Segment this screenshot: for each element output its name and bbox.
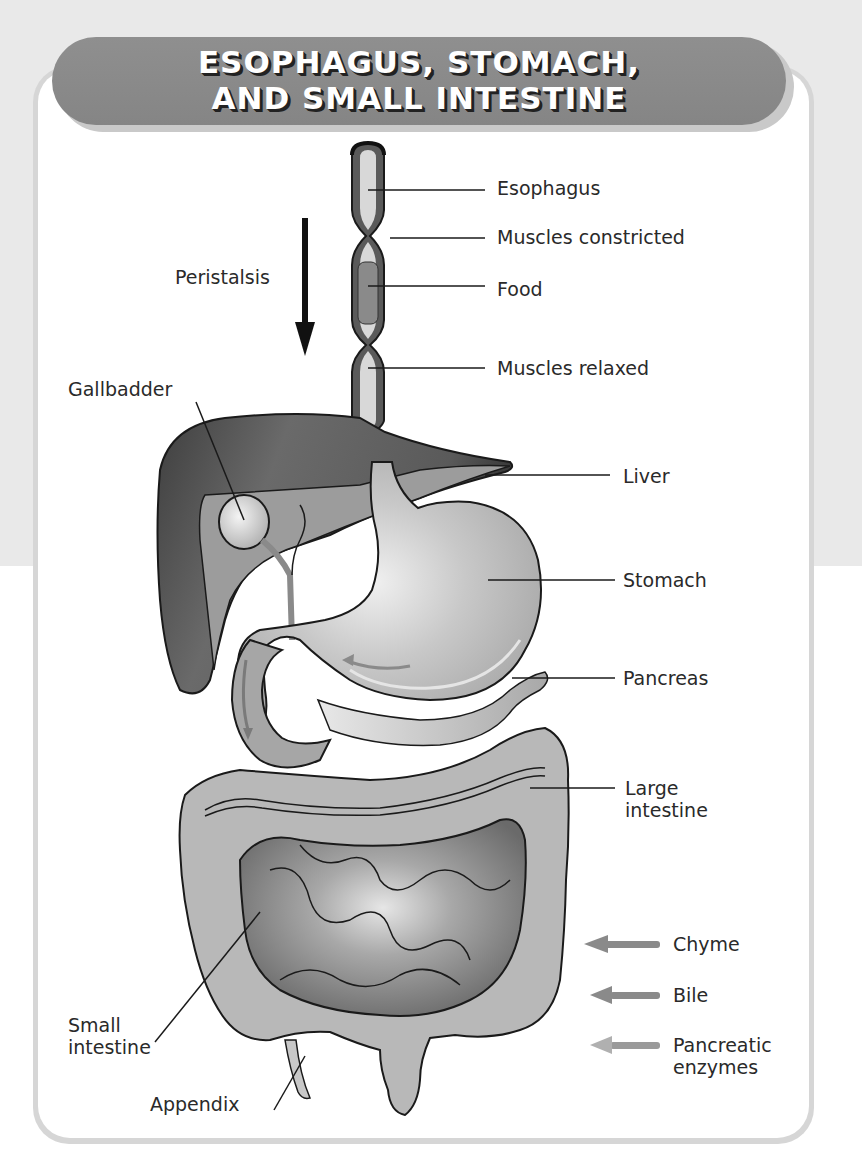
legend-bile-arrow-icon: [590, 986, 660, 1004]
label-pancreas: Pancreas: [623, 667, 708, 689]
legend-pancreatic-line1: Pancreatic: [673, 1034, 772, 1056]
label-food: Food: [497, 278, 543, 300]
legend-pancreatic-enzymes-arrow-icon: [590, 1036, 660, 1054]
legend-pancreatic-enzymes-label: Pancreatic enzymes: [673, 1034, 772, 1078]
legend-chyme-label: Chyme: [673, 933, 740, 955]
label-liver: Liver: [623, 465, 670, 487]
small-intestine-shape: [240, 819, 526, 1016]
label-small-intestine-line1: Small: [68, 1014, 151, 1036]
label-large-intestine-line2: intestine: [625, 799, 708, 821]
esophagus-tube: [352, 143, 384, 462]
label-appendix: Appendix: [150, 1093, 239, 1115]
label-muscles-relaxed: Muscles relaxed: [497, 357, 649, 379]
label-esophagus: Esophagus: [497, 177, 600, 199]
label-peristalsis: Peristalsis: [175, 266, 270, 288]
label-small-intestine: Small intestine: [68, 1014, 151, 1058]
legend-pancreatic-line2: enzymes: [673, 1056, 772, 1078]
label-gallbladder: Gallbadder: [68, 378, 172, 400]
label-stomach: Stomach: [623, 569, 707, 591]
digestive-system-illustration: [0, 0, 862, 1161]
duodenum-shape: [232, 640, 330, 768]
label-large-intestine: Large intestine: [625, 777, 708, 821]
label-large-intestine-line1: Large: [625, 777, 708, 799]
peristalsis-arrow-icon: [295, 218, 315, 356]
label-small-intestine-line2: intestine: [68, 1036, 151, 1058]
legend-bile-label: Bile: [673, 984, 708, 1006]
legend-chyme-arrow-icon: [584, 935, 660, 953]
label-muscles-constricted: Muscles constricted: [497, 226, 685, 248]
